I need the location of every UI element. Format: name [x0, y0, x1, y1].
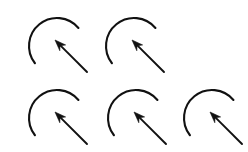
- arc-arrow-symbol: [90, 6, 170, 82]
- figure-canvas: [0, 0, 248, 152]
- symbol-drawing: [13, 78, 93, 152]
- arrow-shaft-icon: [60, 45, 87, 72]
- arrow-shaft-icon: [137, 45, 164, 72]
- arrow-shaft-icon: [60, 117, 87, 144]
- arrow-shaft-icon: [215, 117, 242, 144]
- arc-arrow-symbol: [92, 78, 172, 152]
- arc-arrow-symbol: [13, 6, 93, 82]
- arrow-shaft-icon: [139, 117, 166, 144]
- symbol-drawing: [168, 78, 248, 152]
- symbol-drawing: [90, 6, 170, 82]
- arc-arrow-symbol: [168, 78, 248, 152]
- arc-arrow-symbol: [13, 78, 93, 152]
- symbol-drawing: [92, 78, 172, 152]
- symbol-drawing: [13, 6, 93, 82]
